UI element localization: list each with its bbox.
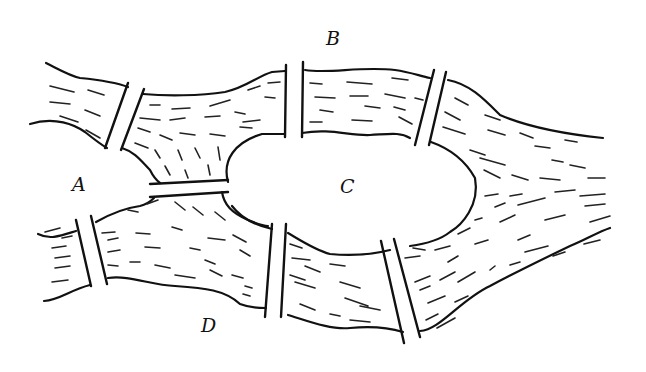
south-bank-lower-left [44, 285, 90, 301]
island-c-north-edge [227, 134, 285, 182]
bridge-3 [415, 70, 446, 145]
north-bank-lower-left [30, 121, 107, 148]
bridge-1 [105, 83, 144, 150]
label-b: B [326, 27, 340, 49]
north-bank-upper-left [46, 63, 128, 87]
north-bank-upper-mid [143, 71, 285, 95]
bridge-5 [76, 216, 107, 286]
label-c: C [340, 175, 355, 197]
konigsberg-bridges-diagram: B A C D [0, 0, 646, 372]
south-bank-lower-mid [108, 277, 266, 308]
bridge-6 [265, 224, 286, 317]
north-bank-upper-right [305, 69, 430, 78]
river-drawing [0, 0, 646, 372]
water-hatching [45, 78, 610, 328]
bridge-4 [150, 180, 228, 197]
north-bank-upper-east [448, 80, 603, 138]
south-bank-lower-right [288, 315, 403, 332]
south-channel-top [96, 198, 154, 222]
south-channel-right [222, 192, 268, 226]
island-a-top [122, 148, 160, 183]
label-d: D [201, 314, 216, 336]
bridge-2 [285, 62, 303, 137]
island-c-bottom [288, 233, 390, 255]
north-channel-bottom [302, 131, 410, 138]
label-a: A [72, 173, 86, 195]
south-bank-lower-east [420, 228, 610, 331]
